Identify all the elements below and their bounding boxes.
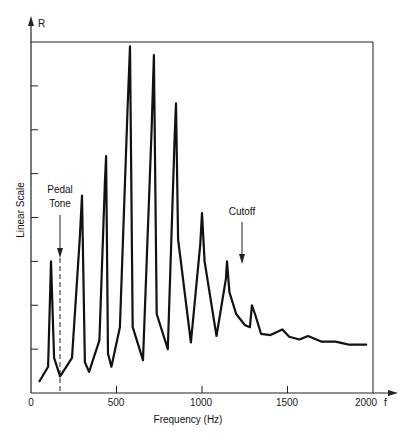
- x-ticks: [117, 386, 288, 393]
- y-axis-title: Linear Scale: [15, 182, 26, 238]
- pedal-arrow-icon: [57, 248, 63, 258]
- x-tick-label: 500: [108, 397, 125, 408]
- resonance-chart: [0, 0, 409, 441]
- cutoff-label: Cutoff: [229, 206, 256, 217]
- y-ticks: [31, 86, 38, 349]
- x-tick-label: 1500: [276, 397, 298, 408]
- y-axis-symbol: R: [38, 18, 45, 29]
- pedal-tone-label-line1: Pedal: [47, 184, 73, 195]
- x-tick-label: 1000: [190, 397, 212, 408]
- y-axis-arrow-icon: [28, 16, 34, 26]
- x-tick-label: 2000: [355, 397, 377, 408]
- pedal-tone-label-line2: Tone: [49, 198, 71, 209]
- x-axis-symbol: f: [384, 397, 387, 408]
- cutoff-arrow-icon: [239, 254, 245, 264]
- x-tick-label: 0: [28, 397, 34, 408]
- x-axis-arrow-icon: [388, 390, 398, 396]
- x-axis-title: Frequency (Hz): [154, 414, 223, 425]
- resonance-curve: [40, 46, 367, 381]
